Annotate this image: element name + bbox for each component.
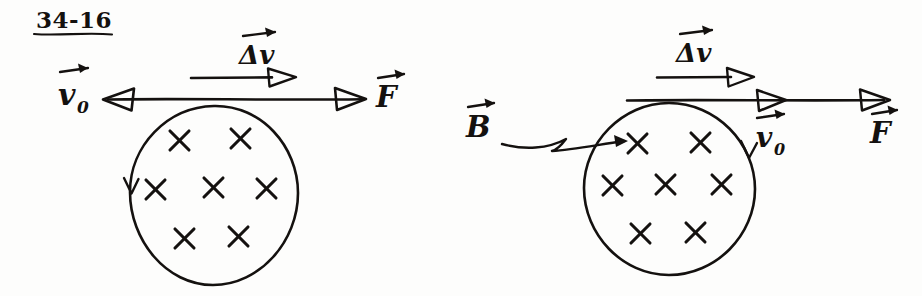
field-cross — [656, 175, 675, 194]
right-diagram: B Δv v 0 F — [465, 26, 898, 276]
worksheet-page: 34-16 — [0, 0, 922, 296]
b-pointer-arrow — [502, 135, 628, 151]
right-circulation-arrowhead — [741, 141, 757, 158]
field-cross — [712, 175, 731, 194]
field-cross — [229, 227, 248, 246]
field-cross — [146, 180, 165, 199]
field-cross — [603, 176, 622, 195]
field-cross — [631, 224, 650, 243]
v0-label-letter: v — [58, 77, 76, 112]
force-label-letter: F — [869, 116, 893, 150]
delta-v-label-text: Δv — [237, 40, 275, 70]
left-field-crosses — [146, 129, 276, 248]
v0-label-subscript: 0 — [77, 97, 89, 117]
b-label-letter: B — [465, 110, 491, 144]
left-delta-v-label: Δv — [237, 28, 276, 71]
right-v0-label: v 0 — [756, 110, 785, 160]
left-v0-label: v 0 — [58, 64, 89, 118]
field-cross — [204, 178, 223, 197]
delta-v-label-text: Δv — [674, 38, 712, 68]
handwritten-diagram-canvas: 34-16 — [0, 0, 922, 296]
field-cross — [257, 179, 276, 198]
right-b-label: B — [465, 99, 495, 145]
field-cross — [686, 223, 705, 242]
page-title: 34-16 — [36, 6, 112, 33]
left-diagram: v 0 Δv F — [58, 28, 405, 286]
v0-label-subscript: 0 — [774, 140, 785, 159]
force-label-letter: F — [375, 80, 399, 114]
field-cross — [170, 131, 189, 150]
right-field-crosses — [603, 133, 731, 243]
field-cross — [691, 133, 710, 152]
v0-label-letter: v — [756, 121, 773, 154]
right-force-label: F — [869, 106, 898, 151]
right-delta-v-label: Δv — [674, 26, 713, 69]
field-cross — [231, 129, 250, 148]
field-cross — [175, 229, 194, 248]
right-main-axis-line — [627, 100, 884, 101]
left-force-label: F — [375, 70, 405, 115]
title-underline — [34, 34, 112, 35]
right-delta-v-arrow — [657, 68, 754, 87]
field-cross — [628, 134, 647, 153]
left-delta-v-arrow — [191, 69, 296, 87]
